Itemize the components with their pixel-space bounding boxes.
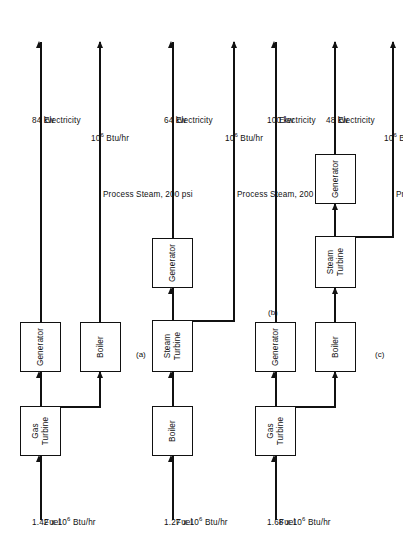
steamturbine-to-generator2-arrow-c	[332, 203, 338, 210]
box-steam-turbine-c[interactable]: Steam Turbine	[315, 236, 356, 288]
steam-value-c: 106 Btu/hr	[384, 134, 403, 144]
electricity2-value-text-c: 48 kw	[326, 116, 348, 125]
fuel-line-c	[275, 456, 277, 520]
box-generator-a-line1: Generator	[36, 328, 46, 366]
box-generator-2-c[interactable]: Generator	[315, 154, 356, 204]
fuel-value-c: 1.68 x 106 Btu/hr	[267, 518, 331, 528]
electricity-arrow-b	[168, 41, 174, 48]
gt-to-generator1-arrow-c	[271, 371, 277, 378]
box-gas-turbine-c[interactable]: Gas Turbine	[255, 406, 296, 456]
electricity1-line-c	[275, 42, 277, 322]
caption-c: (c)	[375, 350, 384, 359]
box-gas-turbine-a-line1: Gas	[31, 417, 41, 446]
box-gas-turbine-a[interactable]: Gas Turbine	[20, 406, 61, 456]
steam-extraction-vline-c	[356, 236, 394, 238]
electricity2-line-c	[334, 42, 336, 154]
steam-value-text-c: 10	[384, 134, 393, 143]
electricity1-value-c: 100 kw	[267, 116, 294, 126]
electricity-arrow-a	[36, 41, 42, 48]
box-boiler-a-line1: Boiler	[96, 336, 106, 358]
box-boiler-c[interactable]: Boiler	[315, 322, 356, 372]
fuel-value-text-a: 1.42 x 10	[32, 518, 67, 527]
box-boiler-a[interactable]: Boiler	[80, 322, 121, 372]
boiler-inlet-arrow-a	[97, 371, 103, 378]
box-generator-b-line1: Generator	[168, 244, 178, 282]
electricity-line-b	[172, 42, 174, 238]
fuel-value-text-b: 1.27 x 10	[164, 518, 199, 527]
electricity1-arrow-c	[271, 41, 277, 48]
fuel-arrow-a	[36, 455, 42, 462]
electricity-value-b: 64 kw	[164, 116, 186, 126]
electricity-value-text-b: 64 kw	[164, 116, 186, 125]
electricity1-value-text-c: 100 kw	[267, 116, 294, 125]
caption-a: (a)	[136, 350, 146, 359]
box-boiler-b[interactable]: Boiler	[152, 406, 193, 456]
steam-unit-a: Btu/hr	[104, 134, 129, 143]
steam-value-text-a: 10	[91, 134, 100, 143]
boiler-inlet-arrow-c	[332, 371, 338, 378]
diagram-c: Fuel 1.68 x 106 Btu/hr Gas Turbine Gener…	[253, 10, 403, 520]
box-generator-b[interactable]: Generator	[152, 238, 193, 288]
box-gas-turbine-c-line2: Turbine	[276, 417, 286, 446]
box-steam-turbine-b[interactable]: Steam Turbine	[152, 320, 193, 372]
box-gas-turbine-c-line1: Gas	[266, 417, 276, 446]
box-boiler-b-line1: Boiler	[168, 420, 178, 442]
diagram-a: Fuel 1.42 x 106 Btu/hr Gas Turbine Gener…	[18, 10, 128, 520]
fuel-line-b	[172, 456, 174, 520]
diagram-b: Fuel 1.27 x 106 Btu/hr Boiler Steam Turb…	[150, 10, 260, 520]
steam-unit-c: Btu/hr	[397, 134, 403, 143]
box-generator-2-c-line1: Generator	[331, 160, 341, 198]
electricity-value-text-a: 84 kw	[32, 116, 54, 125]
boiler-to-steamturbine-arrow-c	[332, 287, 338, 294]
fuel-unit-a: Btu/hr	[71, 518, 96, 527]
steam-label-c: Process Steam, 200 psi	[396, 190, 403, 200]
fuel-line-a	[40, 456, 42, 520]
electricity-value-a: 84 kw	[32, 116, 54, 126]
electricity2-arrow-c	[332, 41, 338, 48]
fuel-value-a: 1.42 x 106 Btu/hr	[32, 518, 96, 528]
steamturbine-to-generator-arrow-b	[168, 287, 174, 294]
steam-arrow-a	[97, 41, 103, 48]
steam-arrow-b	[231, 41, 237, 48]
steam-value-text-b: 10	[225, 134, 234, 143]
fuel-unit-b: Btu/hr	[203, 518, 228, 527]
figure-canvas: Fuel 1.42 x 106 Btu/hr Gas Turbine Gener…	[0, 0, 403, 537]
fuel-value-b: 1.27 x 106 Btu/hr	[164, 518, 228, 528]
gt-to-generator-arrow-a	[36, 371, 42, 378]
steam-extraction-vline-b	[193, 320, 235, 322]
fuel-arrow-b	[168, 455, 174, 462]
steam-name-c: Process Steam, 200 psi	[396, 190, 403, 199]
steam-arrow-c	[390, 41, 396, 48]
fuel-unit-c: Btu/hr	[306, 518, 331, 527]
box-steam-turbine-c-line1: Steam	[326, 248, 336, 277]
boiler-to-steamturbine-arrow-b	[168, 371, 174, 378]
steam-value-a: 106 Btu/hr	[91, 134, 129, 144]
box-generator-a[interactable]: Generator	[20, 322, 61, 372]
box-steam-turbine-c-line2: Turbine	[336, 248, 346, 277]
electricity2-value-c: 48 kw	[326, 116, 348, 126]
steam-line-a	[99, 42, 101, 322]
electricity-line-a	[40, 42, 42, 322]
box-boiler-c-line1: Boiler	[331, 336, 341, 358]
box-gas-turbine-a-line2: Turbine	[41, 417, 51, 446]
box-steam-turbine-b-line1: Steam	[163, 332, 173, 361]
gt-exhaust-vline-a	[61, 406, 101, 408]
gt-exhaust-vline-c	[296, 406, 336, 408]
box-generator-1-c[interactable]: Generator	[255, 322, 296, 372]
fuel-value-text-c: 1.68 x 10	[267, 518, 302, 527]
box-steam-turbine-b-line2: Turbine	[173, 332, 183, 361]
fuel-arrow-c	[271, 455, 277, 462]
steam-extraction-hline-b	[233, 42, 235, 322]
box-generator-1-c-line1: Generator	[271, 328, 281, 366]
